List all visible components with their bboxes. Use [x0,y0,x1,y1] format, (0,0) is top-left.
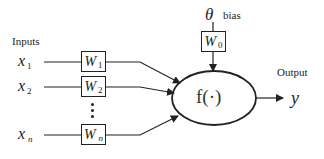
inputs-label: Inputs [12,36,40,47]
weight-box-w1: W1 [81,51,106,72]
bias-symbol: θ [205,6,213,23]
input-xn: xn [18,126,33,142]
output-symbol: y [291,89,299,107]
input-x2: x2 [18,78,32,94]
ellipsis-dots [91,103,94,121]
activation-function: f(·) [196,86,221,108]
input-x1: x1 [18,53,32,69]
weight-box-w0: W0 [201,31,226,52]
output-label: Output [277,67,308,78]
wn-arrow [106,116,178,135]
connector-lines [0,0,324,159]
perceptron-diagram: Inputs x1 x2 xn W1 W2 Wn θ bias W0 f(·) … [0,0,324,159]
w1-arrow [106,62,180,83]
bias-label: bias [223,10,241,21]
weight-box-wn: Wn [81,124,106,145]
w2-arrow [106,87,174,93]
weight-box-w2: W2 [81,76,106,97]
